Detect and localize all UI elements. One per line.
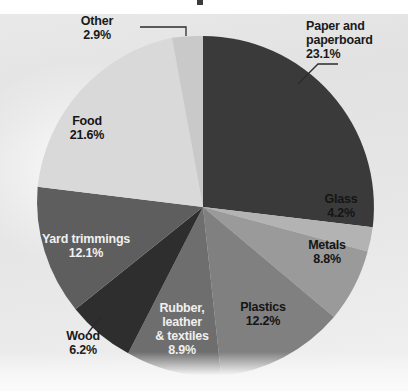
- pie-label-plastics-pct: 12.2%: [227, 314, 299, 328]
- pie-label-metals: Metals 8.8%: [294, 238, 360, 266]
- pie-label-yard-pct: 12.1%: [28, 246, 144, 260]
- pie-label-rubber-line2: leather: [141, 315, 223, 329]
- pie-label-glass-pct: 4.2%: [310, 206, 372, 220]
- pie-label-metals-name: Metals: [308, 238, 346, 252]
- pie-label-food-name: Food: [72, 114, 102, 128]
- pie-label-rubber-line3: & textiles: [141, 329, 223, 343]
- bottom-fade-overlay: [0, 352, 408, 391]
- pie-label-paper-and-paperboard: Paper and paperboard 23.1%: [306, 19, 406, 61]
- pie-label-other-pct: 2.9%: [61, 28, 133, 42]
- pie-label-other: Other 2.9%: [61, 14, 133, 42]
- pie-label-food: Food 21.6%: [43, 114, 131, 142]
- pie-label-yard-name: Yard trimmings: [42, 232, 130, 246]
- pie-label-paper-line1: Paper and: [306, 19, 365, 33]
- pie-chart-screenshot: Other 2.9% Paper and paperboard 23.1% Wo…: [0, 0, 408, 391]
- pie-label-plastics: Plastics 12.2%: [227, 300, 299, 328]
- pie-label-paper-line2: paperboard: [306, 33, 406, 47]
- pie-label-rubber-line1: Rubber,: [159, 301, 204, 315]
- leader-line-other: [140, 27, 186, 36]
- pie-label-rubber-leather-textiles: Rubber, leather & textiles 8.9%: [141, 301, 223, 357]
- pie-label-glass: Glass 4.2%: [310, 192, 372, 220]
- pie-label-glass-name: Glass: [324, 192, 357, 206]
- pie-label-wood-name: Wood: [66, 329, 100, 343]
- pie-label-metals-pct: 8.8%: [294, 252, 360, 266]
- pie-label-yard-trimmings: Yard trimmings 12.1%: [28, 232, 144, 260]
- pie-label-paper-pct: 23.1%: [306, 47, 406, 61]
- pie-label-plastics-name: Plastics: [240, 300, 286, 314]
- pie-label-food-pct: 21.6%: [43, 128, 131, 142]
- pie-label-other-name: Other: [81, 14, 113, 28]
